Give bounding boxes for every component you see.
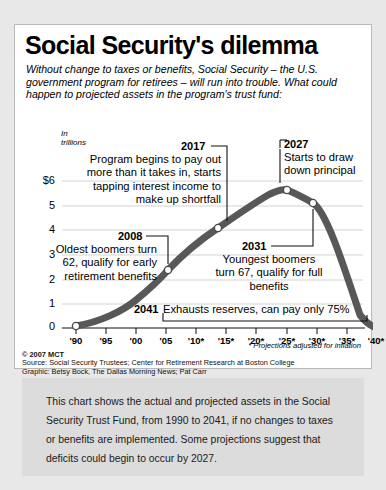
x-tick-label-2005: '05	[149, 335, 183, 346]
annotation-year-2017: 2017	[181, 140, 205, 152]
y-tick-label-6: $6	[29, 174, 55, 186]
marker-2031	[309, 199, 316, 206]
graphic-credit-line: Graphic: Betsy Bock, The Dallas Morning …	[22, 368, 295, 376]
y-axis-unit-line1: In	[61, 129, 68, 138]
annotation-year-2031: 2031	[242, 240, 266, 252]
leader-2031	[271, 209, 313, 246]
infographic-card: Social Security's dilemma Without change…	[14, 24, 372, 369]
y-tick-label-1: 1	[29, 297, 55, 309]
x-tick-label-2015: '15*	[209, 335, 243, 346]
credits-block: © 2007 MCT Source: Social Security Trust…	[22, 351, 295, 376]
marker-1990	[72, 322, 79, 329]
y-axis-unit-label: In trillions	[61, 129, 86, 148]
marker-2027	[283, 186, 290, 193]
annotation-text-2041: Exhausts reserves, can pay only 75%	[163, 303, 363, 316]
x-tick-label-1990: '90	[59, 335, 93, 346]
x-tick-label-2040: '40*	[359, 335, 386, 346]
annotation-year-2027: 2027	[284, 138, 308, 150]
marker-2008	[164, 266, 171, 273]
annotation-year-2041: 2041	[134, 303, 158, 315]
x-tick-label-2010: '10*	[179, 335, 213, 346]
annotation-text-2008: Oldest boomers turn 62, qualify for earl…	[42, 243, 157, 283]
y-tick-label-5: 5	[29, 199, 55, 211]
annotation-text-2027: Starts to draw down principal	[284, 151, 368, 178]
projection-footnote: * Projections adjusted for inflation	[248, 341, 361, 350]
x-tick-label-1995: '95	[89, 335, 123, 346]
caption-block: This chart shows the actual and projecte…	[22, 378, 364, 476]
y-tick-label-4: 4	[29, 223, 55, 235]
x-tick-label-2000: '00	[119, 335, 153, 346]
annotation-text-2031: Youngest boomers turn 67, qualify for fu…	[215, 253, 323, 293]
y-axis-unit-line2: trillions	[61, 138, 86, 147]
annotation-year-2008: 2008	[118, 230, 142, 242]
marker-2017	[214, 224, 221, 231]
annotation-text-2017: Program begins to pay out more than it t…	[66, 153, 221, 207]
y-tick-label-0: 0	[29, 320, 55, 332]
x-axis-ticks	[76, 328, 373, 334]
page-background: Social Security's dilemma Without change…	[0, 0, 386, 490]
chart-plot-area: In trillions $6 5 4 3 2 1 0 '90 '95 '00 …	[15, 25, 373, 370]
